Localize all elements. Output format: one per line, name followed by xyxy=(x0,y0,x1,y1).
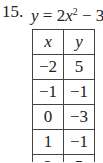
table-row: 1 −1 xyxy=(33,130,95,155)
table-header-row: x y xyxy=(33,30,95,55)
equation-equals: = 2 xyxy=(39,6,66,25)
cell-y: −1 xyxy=(64,130,95,155)
header-y: y xyxy=(64,30,95,55)
cell-x: 1 xyxy=(33,130,64,155)
cell-y: −1 xyxy=(64,80,95,105)
equation: y = 2x2 − 3 xyxy=(31,2,103,26)
equation-var: x xyxy=(65,6,73,25)
table-row: 0 −3 xyxy=(33,105,95,130)
table-row: −2 5 xyxy=(33,55,95,80)
table-row: −1 −1 xyxy=(33,80,95,105)
equation-lhs: y xyxy=(31,6,39,25)
cell-y: 5 xyxy=(64,155,95,163)
equation-rest: − 3 xyxy=(78,6,103,25)
cell-x: −2 xyxy=(33,55,64,80)
cell-y: 5 xyxy=(64,55,95,80)
cell-y: −3 xyxy=(64,105,95,130)
values-table: x y −2 5 −1 −1 0 −3 1 −1 2 5 xyxy=(32,29,95,162)
cell-x: −1 xyxy=(33,80,64,105)
problem-number: 15. xyxy=(2,2,23,22)
cell-x: 2 xyxy=(33,155,64,163)
cell-x: 0 xyxy=(33,105,64,130)
header-x: x xyxy=(33,30,64,55)
table-row: 2 5 xyxy=(33,155,95,163)
